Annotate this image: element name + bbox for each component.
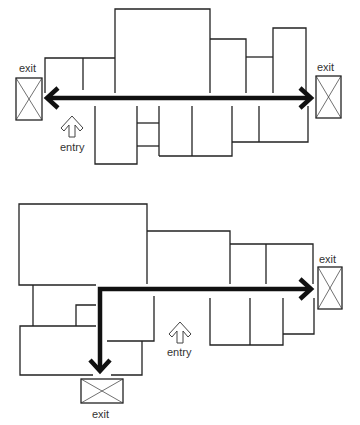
evacuation-floor-plans: exit exit entry [0, 0, 360, 425]
entry-label: entry [60, 141, 85, 153]
entry-arrow-icon [61, 116, 83, 137]
floor-plan-bottom: exit exit entry [19, 204, 342, 420]
route-arrow-top [47, 88, 311, 108]
entry-arrow-icon [169, 322, 191, 343]
exit-label: exit [317, 61, 334, 73]
exit-label: exit [19, 62, 36, 74]
exit-right-top: exit [316, 61, 341, 118]
entry-label: entry [167, 346, 192, 358]
exit-bottom: exit [81, 379, 123, 420]
exit-right-bottom: exit [318, 253, 342, 309]
exit-left-top: exit [16, 62, 42, 120]
exit-label: exit [319, 253, 336, 265]
entry-marker-top: entry [60, 116, 85, 153]
entry-marker-bottom: entry [167, 322, 192, 358]
route-arrow-bottom [90, 279, 311, 371]
exit-label: exit [92, 408, 109, 420]
floor-plan-top: exit exit entry [16, 9, 341, 164]
